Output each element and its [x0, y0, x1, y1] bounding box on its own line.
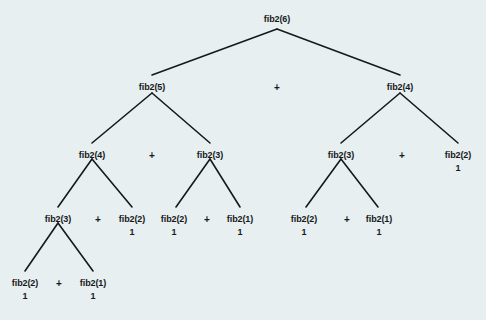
- node-return-value: 1: [161, 227, 187, 238]
- node-call-label: fib2(2): [445, 150, 471, 161]
- tree-node: fib2(5): [139, 82, 165, 93]
- plus-operator: +: [56, 278, 62, 289]
- tree-edge: [341, 93, 400, 143]
- tree-edge: [152, 93, 210, 143]
- tree-edge: [92, 159, 132, 207]
- tree-node: fib2(2)1: [161, 214, 187, 238]
- node-return-value: 1: [119, 227, 145, 238]
- node-return-value: 1: [366, 227, 392, 238]
- tree-edge: [25, 223, 58, 271]
- node-call-label: fib2(2): [12, 278, 38, 289]
- node-return-value: 1: [227, 227, 253, 238]
- tree-node: fib2(3): [197, 150, 223, 161]
- tree-edge: [306, 159, 341, 207]
- tree-edge: [210, 159, 240, 207]
- tree-edge: [58, 159, 92, 207]
- plus-operator: +: [344, 214, 350, 225]
- tree-node: fib2(1)1: [80, 278, 106, 302]
- plus-operator: +: [149, 150, 155, 161]
- tree-node: fib2(2)1: [445, 150, 471, 174]
- tree-node: fib2(1)1: [366, 214, 392, 238]
- tree-edge: [58, 223, 93, 271]
- tree-node: fib2(2)1: [119, 214, 145, 238]
- plus-operator: +: [274, 82, 280, 93]
- tree-edge: [277, 29, 400, 75]
- plus-operator: +: [399, 150, 405, 161]
- node-call-label: fib2(2): [161, 214, 187, 225]
- node-call-label: fib2(2): [119, 214, 145, 225]
- node-call-label: fib2(2): [291, 214, 317, 225]
- node-return-value: 1: [291, 227, 317, 238]
- tree-node: fib2(4): [387, 82, 413, 93]
- node-call-label: fib2(6): [264, 14, 290, 25]
- tree-node: fib2(4): [79, 150, 105, 161]
- node-call-label: fib2(3): [197, 150, 223, 161]
- recursion-tree-diagram: fib2(6)fib2(5)fib2(4)fib2(4)fib2(3)fib2(…: [0, 0, 486, 320]
- tree-node: fib2(3): [328, 150, 354, 161]
- node-return-value: 1: [12, 291, 38, 302]
- tree-node: fib2(6): [264, 14, 290, 25]
- node-call-label: fib2(3): [328, 150, 354, 161]
- tree-node: fib2(2)1: [291, 214, 317, 238]
- node-return-value: 1: [445, 163, 471, 174]
- plus-operator: +: [204, 214, 210, 225]
- tree-node: fib2(2)1: [12, 278, 38, 302]
- plus-operator: +: [95, 214, 101, 225]
- tree-edge: [152, 29, 277, 75]
- node-return-value: 1: [80, 291, 106, 302]
- node-call-label: fib2(4): [79, 150, 105, 161]
- tree-edge: [176, 159, 210, 207]
- node-call-label: fib2(4): [387, 82, 413, 93]
- node-call-label: fib2(1): [227, 214, 253, 225]
- tree-edge: [92, 93, 152, 143]
- node-call-label: fib2(3): [45, 214, 71, 225]
- tree-node: fib2(3): [45, 214, 71, 225]
- tree-edge: [400, 93, 458, 143]
- node-call-label: fib2(1): [80, 278, 106, 289]
- node-call-label: fib2(1): [366, 214, 392, 225]
- tree-node: fib2(1)1: [227, 214, 253, 238]
- tree-edges-layer: [0, 0, 486, 320]
- tree-edge: [341, 159, 378, 207]
- node-call-label: fib2(5): [139, 82, 165, 93]
